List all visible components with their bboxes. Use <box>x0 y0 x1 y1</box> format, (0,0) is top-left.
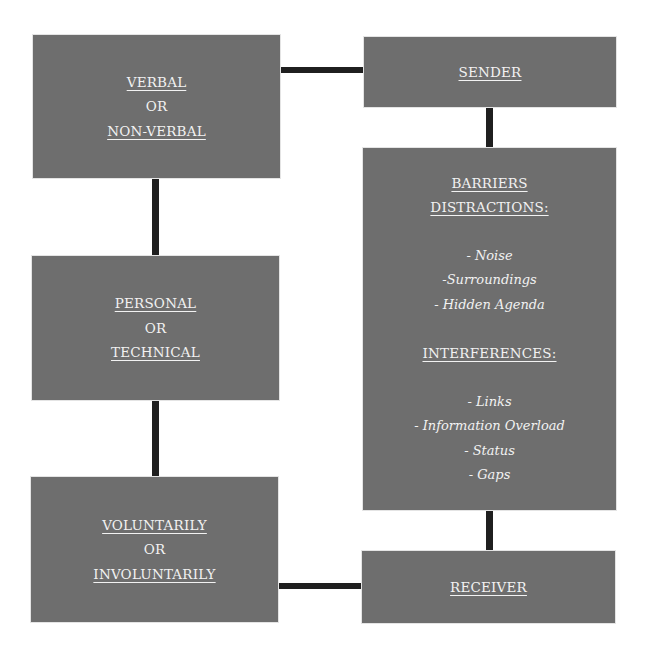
connector-voluntarily-receiver <box>278 583 362 589</box>
distraction-item: - Hidden Agenda <box>434 293 545 318</box>
node-voluntarily-or-involuntarily: VOLUNTARILY OR INVOLUNTARILY <box>31 477 278 622</box>
distraction-item: - Noise <box>466 244 512 269</box>
node-label: VERBAL <box>127 70 187 95</box>
connector-verbal-sender <box>280 67 364 73</box>
node-barriers: BARRIERS DISTRACTIONS: - Noise -Surround… <box>363 148 616 510</box>
node-label: OR <box>145 316 167 341</box>
connector-sender-barriers <box>486 107 493 148</box>
distraction-item: -Surroundings <box>442 268 537 293</box>
interference-item: - Links <box>467 390 511 415</box>
interference-item: - Gaps <box>469 463 511 488</box>
interference-item: - Status <box>464 439 515 464</box>
interference-item: - Information Overload <box>414 414 565 439</box>
interferences-heading: INTERFERENCES: <box>422 341 556 366</box>
node-sender: SENDER <box>364 37 616 107</box>
node-label: NON-VERBAL <box>107 119 206 144</box>
connector-verbal-personal <box>152 178 159 256</box>
distractions-heading: DISTRACTIONS: <box>430 195 548 220</box>
node-label: VOLUNTARILY <box>102 513 207 538</box>
node-personal-or-technical: PERSONAL OR TECHNICAL <box>32 256 279 400</box>
node-receiver: RECEIVER <box>362 551 615 623</box>
connector-personal-voluntarily <box>152 400 159 477</box>
node-label: PERSONAL <box>115 291 197 316</box>
node-label: RECEIVER <box>450 575 527 600</box>
node-label: INVOLUNTARILY <box>93 562 215 587</box>
node-label: OR <box>144 537 166 562</box>
barriers-heading: BARRIERS <box>451 171 527 196</box>
node-label: TECHNICAL <box>111 340 200 365</box>
node-verbal-or-nonverbal: VERBAL OR NON-VERBAL <box>33 35 280 178</box>
connector-barriers-receiver <box>486 510 493 551</box>
node-label: OR <box>146 94 168 119</box>
node-label: SENDER <box>459 60 522 85</box>
